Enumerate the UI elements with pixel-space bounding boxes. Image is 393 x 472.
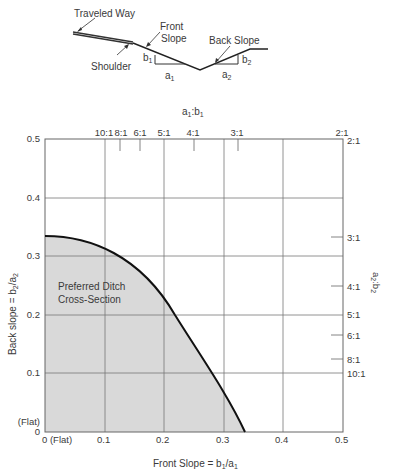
- svg-text:0: 0: [35, 426, 40, 437]
- svg-text:10:1: 10:1: [347, 368, 366, 379]
- label-back-slope: Back Slope: [209, 35, 260, 46]
- annotation-line2: Cross-Section: [58, 294, 121, 305]
- x-axis-label: Front Slope = b1/a1: [153, 458, 238, 470]
- right-tick-labels: 2:1 3:1 4:1 5:1 6:1 8:1 10:1: [347, 135, 366, 379]
- x-tick-labels: 0 (Flat) 0.1 0.2 0.3 0.4 0.5: [42, 434, 348, 445]
- svg-text:2:1: 2:1: [347, 135, 360, 146]
- annotation-line1: Preferred Ditch: [58, 281, 125, 292]
- svg-text:(Flat): (Flat): [18, 416, 40, 427]
- arrow-front-slope: [148, 32, 160, 45]
- top-tick-labels: 10:1 8:1 6:1 5:1 4:1 3:1 2:1: [95, 127, 349, 138]
- svg-text:5:1: 5:1: [347, 309, 360, 320]
- ditch-chart: Traveled Way Shoulder Front Slope Back S…: [0, 0, 393, 472]
- label-b2: b2: [242, 54, 252, 66]
- label-a1: a1: [165, 70, 175, 82]
- svg-text:0.4: 0.4: [27, 192, 40, 203]
- svg-text:3:1: 3:1: [230, 127, 243, 138]
- svg-text:0.5: 0.5: [27, 133, 40, 144]
- y-tick-labels: 0 0.1 0.2 0.3 0.4 0.5 (Flat): [18, 133, 40, 437]
- svg-text:6:1: 6:1: [133, 127, 146, 138]
- svg-text:0.2: 0.2: [156, 434, 169, 445]
- label-front-slope-1: Front: [160, 21, 184, 32]
- top-minor-ticks: [120, 139, 238, 151]
- svg-text:0.2: 0.2: [27, 309, 40, 320]
- svg-text:3:1: 3:1: [347, 232, 360, 243]
- preferred-region: [45, 236, 245, 432]
- label-traveled-way: Traveled Way: [74, 8, 135, 19]
- chart-area: Preferred Ditch Cross-Section 0 (Flat) 0…: [7, 106, 382, 470]
- svg-text:0.4: 0.4: [275, 434, 288, 445]
- label-shoulder: Shoulder: [91, 61, 132, 72]
- svg-text:10:1: 10:1: [95, 127, 114, 138]
- right-axis-label: a2:b2: [370, 272, 382, 293]
- top-axis-label: a1:b1: [182, 106, 204, 118]
- cross-section-diagram: Traveled Way Shoulder Front Slope Back S…: [73, 8, 268, 82]
- svg-text:0.1: 0.1: [97, 434, 110, 445]
- label-a2: a2: [222, 69, 232, 81]
- svg-text:8:1: 8:1: [347, 354, 360, 365]
- right-minor-ticks: [331, 237, 343, 359]
- svg-text:4:1: 4:1: [186, 127, 199, 138]
- svg-text:6:1: 6:1: [347, 330, 360, 341]
- svg-text:4:1: 4:1: [347, 281, 360, 292]
- label-front-slope-2: Slope: [161, 33, 187, 44]
- svg-text:8:1: 8:1: [114, 127, 127, 138]
- label-b1: b1: [143, 52, 153, 64]
- svg-text:0.5: 0.5: [335, 434, 348, 445]
- svg-text:0 (Flat): 0 (Flat): [42, 434, 72, 445]
- svg-text:0.3: 0.3: [27, 250, 40, 261]
- svg-text:5:1: 5:1: [157, 127, 170, 138]
- svg-text:0.1: 0.1: [27, 367, 40, 378]
- y-axis-label: Back slope = b2/a2: [7, 273, 19, 355]
- svg-text:0.3: 0.3: [216, 434, 229, 445]
